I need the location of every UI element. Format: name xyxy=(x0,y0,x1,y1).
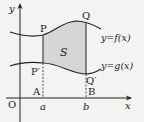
curve-label-f: y=f(x) xyxy=(100,32,131,43)
point-label-q-prime: Q′ xyxy=(86,75,97,86)
point-label-q: Q xyxy=(82,10,90,21)
origin-label: O xyxy=(8,99,16,110)
area-between-curves-diagram: y P Q S y=f(x) y=g(x) P′ Q′ A B O a b x xyxy=(0,0,144,122)
point-label-p: P xyxy=(40,23,47,34)
region-label-s: S xyxy=(60,46,68,59)
point-label-p-prime: P′ xyxy=(31,66,41,77)
x-tick-a: a xyxy=(40,101,46,112)
x-tick-b: b xyxy=(83,101,89,112)
x-axis-label: x xyxy=(125,100,131,111)
point-label-a: A xyxy=(32,86,41,97)
y-axis-label: y xyxy=(8,3,15,14)
curve-label-g: y=g(x) xyxy=(100,60,133,71)
point-label-b: B xyxy=(88,86,95,97)
